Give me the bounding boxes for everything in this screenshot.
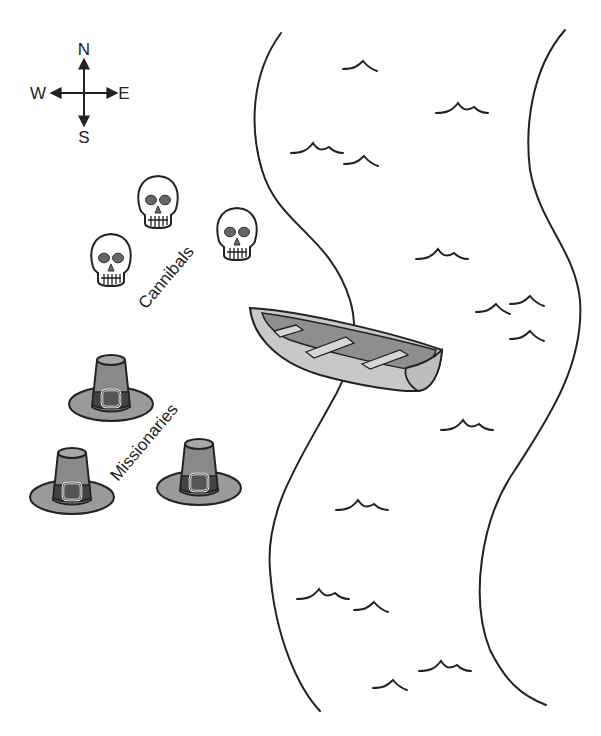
compass-south-label: S (78, 128, 89, 147)
skull-icon (138, 176, 177, 228)
pilgrim-hat-icon (157, 439, 241, 505)
cannibals-group: Cannibals (91, 176, 256, 313)
pilgrim-hat-icon (30, 448, 114, 514)
rowboat-icon (250, 308, 442, 391)
skull-icon (91, 234, 130, 286)
missionaries-group: Missionaries (30, 355, 241, 514)
compass-east-label: E (118, 84, 129, 103)
pilgrim-hat-icon (69, 355, 153, 421)
skull-icon (217, 208, 256, 260)
river-crossing-diagram: N S W E (0, 0, 601, 736)
compass-rose: N S W E (30, 40, 130, 147)
cannibals-label: Cannibals (135, 242, 198, 312)
river-right-bank (480, 30, 581, 705)
compass-north-label: N (78, 40, 90, 59)
compass-west-label: W (30, 84, 46, 103)
